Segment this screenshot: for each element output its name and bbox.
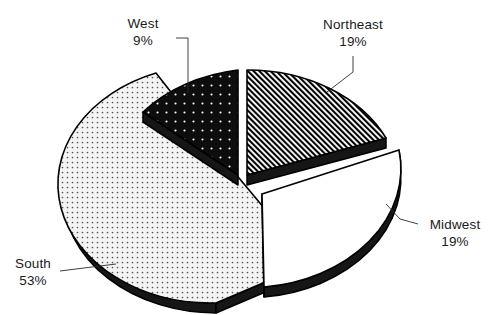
- label-midwest-percent: 19%: [441, 234, 468, 249]
- label-west-percent: 9%: [133, 33, 153, 48]
- label-northeast-percent: 19%: [339, 34, 366, 49]
- label-south-name: South: [15, 256, 51, 271]
- label-northeast-name: Northeast: [323, 17, 383, 32]
- label-midwest-name: Midwest: [430, 217, 481, 232]
- label-west-name: West: [127, 16, 158, 31]
- pie-chart-canvas: West 9% Northeast 19% Midwest 19% South …: [0, 0, 489, 315]
- label-south-percent: 53%: [19, 273, 46, 288]
- pie-chart: West 9% Northeast 19% Midwest 19% South …: [0, 0, 489, 315]
